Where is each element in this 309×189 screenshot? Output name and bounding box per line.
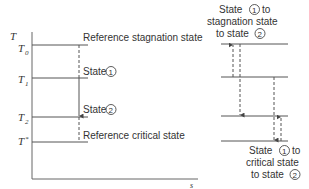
svg-text:State: State [83, 104, 107, 115]
level-label-t2: T 2 [18, 111, 29, 126]
svg-text:critical state: critical state [246, 157, 299, 168]
svg-text:2: 2 [109, 106, 114, 115]
svg-text:2: 2 [25, 118, 29, 126]
svg-text:State: State [249, 145, 273, 156]
svg-text:to state: to state [251, 169, 284, 180]
svg-text:1: 1 [25, 80, 29, 88]
svg-text:*: * [25, 135, 29, 143]
svg-text:2: 2 [258, 30, 263, 39]
label-reference-stagnation: Reference stagnation state [83, 32, 203, 43]
svg-text:to state: to state [216, 28, 249, 39]
svg-text:T: T [18, 135, 25, 147]
diagram-canvas: T s T 0 T 1 T 2 T * Reference stagnation… [0, 0, 309, 189]
svg-text:State: State [219, 4, 243, 15]
label-state2: State 2 [83, 104, 116, 115]
label-state1: State 1 [83, 66, 116, 77]
svg-text:to: to [262, 4, 271, 15]
level-label-t1: T 1 [18, 73, 29, 88]
label-reference-critical: Reference critical state [83, 130, 185, 141]
y-axis-label: T [10, 30, 17, 42]
svg-text:1: 1 [282, 147, 287, 156]
svg-text:0: 0 [25, 49, 29, 57]
caption-stagnation-path: State 1 to stagnation state to state 2 [207, 4, 278, 39]
level-label-t0: T 0 [18, 42, 29, 57]
svg-text:1: 1 [252, 6, 257, 15]
svg-text:2: 2 [293, 171, 298, 180]
caption-critical-path: State 1 to critical state to state 2 [246, 145, 301, 180]
thermo-diagram: T s T 0 T 1 T 2 T * Reference stagnation… [0, 0, 309, 189]
svg-text:State: State [83, 66, 107, 77]
svg-text:stagnation state: stagnation state [207, 16, 278, 27]
svg-text:to: to [292, 145, 301, 156]
x-axis-label: s [190, 181, 193, 189]
svg-text:T: T [18, 42, 25, 54]
svg-text:T: T [18, 111, 25, 123]
svg-text:T: T [18, 73, 25, 85]
level-label-tstar: T * [18, 135, 29, 147]
svg-text:1: 1 [109, 68, 114, 77]
